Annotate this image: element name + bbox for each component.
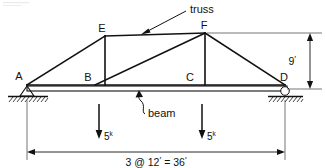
truss-beam-diagram: A B C D E F	[0, 0, 326, 168]
beam-element	[27, 86, 287, 91]
truss-leader-arrowhead	[141, 28, 151, 34]
member-top-chord-F-D	[205, 33, 285, 85]
diagram-canvas: A B C D E F	[0, 0, 326, 168]
truss-annotation-label: truss	[190, 3, 214, 15]
node-label-B: B	[84, 71, 91, 83]
span-dim-value-b: = 36	[164, 156, 185, 168]
truss-leader-line	[146, 11, 186, 32]
member-top-chord-A-E	[27, 36, 105, 85]
node-label-C: C	[186, 71, 194, 83]
load-arrow-at-B: 5k	[96, 104, 114, 142]
load-B-arrowhead	[96, 130, 103, 139]
span-dimension-label: 3 @ 12′= 36′	[125, 155, 186, 168]
height-arrow-bottom	[307, 81, 313, 89]
height-dimension-label: 9′	[288, 54, 296, 67]
annotation-beam: beam	[136, 90, 176, 119]
load-C-label: 5k	[207, 130, 217, 142]
load-C-arrowhead	[199, 130, 206, 139]
height-arrow-top	[307, 33, 313, 41]
scan-artifact	[3, 2, 29, 6]
hatch-left	[9, 97, 48, 102]
load-C-unit: k	[213, 130, 217, 137]
beam-annotation-label: beam	[148, 107, 176, 119]
span-dim-value-a: 3 @ 12	[125, 156, 159, 168]
load-arrow-at-C: 5k	[199, 104, 217, 142]
node-label-D: D	[280, 71, 288, 83]
roller-circle	[281, 87, 290, 96]
member-top-chord-E-F	[105, 33, 205, 36]
height-dimension: 9′	[207, 33, 322, 89]
node-label-A: A	[15, 70, 23, 82]
node-label-E: E	[98, 22, 105, 34]
node-label-F: F	[201, 19, 208, 31]
span-arrow-left	[27, 149, 35, 155]
span-arrow-right	[277, 149, 285, 155]
hatch-right	[269, 97, 303, 102]
load-B-unit: k	[110, 130, 114, 137]
load-B-label: 5k	[104, 130, 114, 142]
truss-members	[27, 33, 285, 85]
